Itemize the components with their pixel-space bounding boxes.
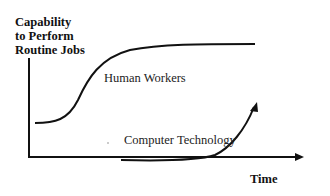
x-axis-arrow-icon bbox=[295, 153, 304, 161]
human-workers-label: Human Workers bbox=[104, 71, 186, 86]
computer-curve-arrow-icon bbox=[250, 102, 258, 112]
computer-technology-label: Computer Technology bbox=[124, 133, 236, 148]
diagram-canvas bbox=[0, 0, 330, 196]
x-axis-label: Time bbox=[250, 172, 278, 187]
stray-dot bbox=[107, 142, 109, 144]
